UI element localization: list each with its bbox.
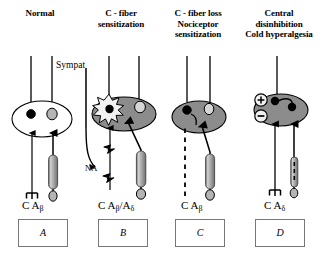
figure-canvas: Normal C - fiber sensitization C - fiber… <box>0 0 321 254</box>
panel-b-axonal-spark-upper <box>104 145 114 153</box>
panel-d-fiber-labels: C Aδ <box>264 199 285 213</box>
panel-d-c-fiber-soma <box>271 97 279 105</box>
panel-b-end-organ <box>136 189 145 199</box>
sympathetic-label: Sympat <box>56 60 85 70</box>
panel-c-end-organ <box>206 190 215 200</box>
panel-a-fiber-labels: C Aβ <box>22 199 44 213</box>
panel-a-graphic <box>12 56 72 201</box>
panel-d-cold-end-organ <box>290 188 298 198</box>
panel-b-abeta-soma <box>135 101 146 113</box>
panel-b-fiber-labels: C Aβ/Aδ <box>98 199 134 213</box>
panel-c-letter-box: C <box>175 219 225 247</box>
panel-d-cold-receptor-soma <box>288 103 296 111</box>
panel-b-letter-box: B <box>98 219 148 247</box>
panel-b-letter: B <box>99 220 147 246</box>
diagram-artwork <box>0 0 321 254</box>
panel-b-graphic <box>86 56 156 199</box>
panel-a-end-organ <box>49 191 57 201</box>
panel-b-myelin-sheath <box>136 151 145 187</box>
panel-d-letter: D <box>256 220 304 246</box>
panel-c-abeta-soma <box>204 103 214 114</box>
panel-c-myelin-sheath <box>206 154 215 189</box>
panel-b-axonal-spark-lower <box>103 174 114 183</box>
panel-b-sympathetic-sprout <box>86 128 95 167</box>
panel-b-c-fiber-soma <box>105 105 113 113</box>
panel-a-abeta-soma <box>47 108 57 120</box>
panel-c-graphic <box>172 56 226 200</box>
panel-d-graphic <box>254 56 308 198</box>
panel-d-letter-box: D <box>255 219 305 247</box>
panel-a-letter-box: A <box>18 219 68 247</box>
noradrenaline-label: NA <box>85 163 97 173</box>
panel-c-letter: C <box>176 220 224 246</box>
panel-d-free-nerve-ending <box>270 190 281 196</box>
panel-a-myelin-sheath <box>49 155 58 189</box>
panel-a-c-fiber-soma <box>27 110 36 119</box>
panel-c-c-fiber-soma <box>183 106 192 115</box>
panel-a-letter: A <box>19 220 67 246</box>
panel-c-ganglion <box>172 101 226 133</box>
panel-c-fiber-labels: C Aβ <box>181 199 203 213</box>
panel-a-ganglion <box>12 101 72 137</box>
